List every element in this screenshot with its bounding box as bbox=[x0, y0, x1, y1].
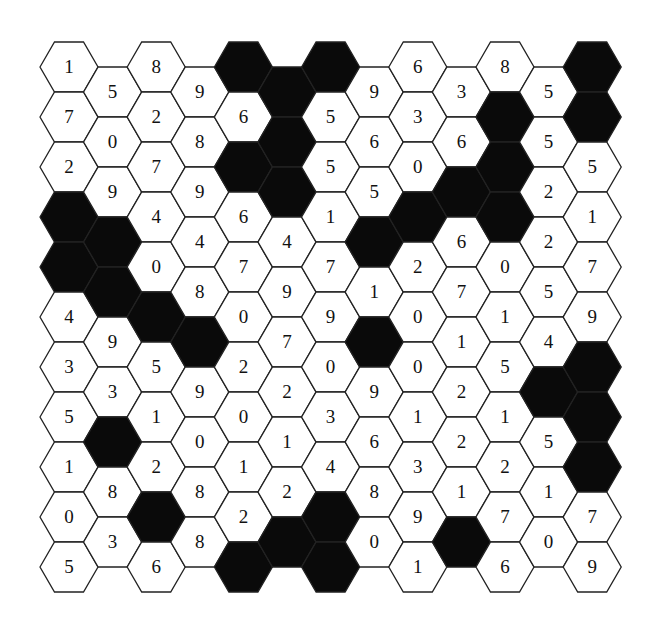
cell-number: 7 bbox=[587, 506, 597, 527]
cell-number: 0 bbox=[326, 356, 336, 377]
cell-number: 1 bbox=[500, 306, 510, 327]
cell-number: 0 bbox=[151, 256, 161, 277]
cell-number: 1 bbox=[544, 481, 554, 502]
cell-number: 1 bbox=[64, 56, 74, 77]
cell-number: 1 bbox=[587, 206, 597, 227]
cell-number: 7 bbox=[282, 331, 292, 352]
cell-number: 3 bbox=[64, 356, 74, 377]
cell-number: 2 bbox=[500, 456, 510, 477]
cell-number: 7 bbox=[457, 281, 467, 302]
cell-number: 1 bbox=[413, 556, 423, 577]
hex-grid: 1724351055099383827405126989489088667020… bbox=[0, 0, 665, 644]
cell-number: 0 bbox=[195, 431, 205, 452]
cell-number: 5 bbox=[108, 81, 118, 102]
cell-number: 8 bbox=[195, 281, 205, 302]
cell-number: 6 bbox=[369, 131, 379, 152]
cell-number: 5 bbox=[587, 156, 597, 177]
cell-number: 0 bbox=[239, 306, 249, 327]
cell-number: 2 bbox=[151, 106, 161, 127]
cell-number: 2 bbox=[413, 256, 423, 277]
cell-number: 9 bbox=[369, 81, 379, 102]
cell-number: 0 bbox=[413, 156, 423, 177]
cell-number: 8 bbox=[195, 531, 205, 552]
cell-number: 0 bbox=[544, 531, 554, 552]
cell-number: 8 bbox=[108, 481, 118, 502]
cell-number: 3 bbox=[108, 381, 118, 402]
cell-number: 1 bbox=[500, 406, 510, 427]
cell-number: 1 bbox=[239, 456, 249, 477]
cell-number: 9 bbox=[108, 331, 118, 352]
cell-number: 5 bbox=[326, 156, 336, 177]
cell-number: 9 bbox=[587, 556, 597, 577]
cell-number: 2 bbox=[544, 181, 554, 202]
cell-number: 1 bbox=[457, 481, 467, 502]
cell-number: 1 bbox=[413, 406, 423, 427]
cell-number: 1 bbox=[282, 431, 292, 452]
cell-number: 1 bbox=[151, 406, 161, 427]
cell-number: 5 bbox=[64, 406, 74, 427]
cell-number: 9 bbox=[195, 381, 205, 402]
cell-number: 2 bbox=[64, 156, 74, 177]
cell-number: 6 bbox=[239, 106, 249, 127]
cell-number: 5 bbox=[326, 106, 336, 127]
cell-number: 1 bbox=[457, 331, 467, 352]
cell-number: 7 bbox=[151, 156, 161, 177]
cell-number: 8 bbox=[151, 56, 161, 77]
cell-number: 0 bbox=[413, 356, 423, 377]
cell-number: 5 bbox=[544, 431, 554, 452]
cell-number: 6 bbox=[369, 431, 379, 452]
cell-number: 9 bbox=[369, 381, 379, 402]
cell-number: 5 bbox=[544, 281, 554, 302]
cell-number: 5 bbox=[544, 131, 554, 152]
cell-number: 0 bbox=[108, 131, 118, 152]
cell-number: 3 bbox=[413, 456, 423, 477]
cell-number: 6 bbox=[413, 56, 423, 77]
cell-number: 8 bbox=[195, 131, 205, 152]
cell-number: 2 bbox=[239, 506, 249, 527]
cell-number: 0 bbox=[239, 406, 249, 427]
cell-number: 4 bbox=[195, 231, 205, 252]
cell-number: 6 bbox=[457, 131, 467, 152]
cell-number: 5 bbox=[151, 356, 161, 377]
cell-number: 1 bbox=[326, 206, 336, 227]
cell-number: 2 bbox=[282, 481, 292, 502]
cell-number: 9 bbox=[195, 181, 205, 202]
cell-number: 9 bbox=[282, 281, 292, 302]
cell-number: 0 bbox=[413, 306, 423, 327]
cell-number: 4 bbox=[544, 331, 554, 352]
cell-number: 9 bbox=[587, 306, 597, 327]
cell-number: 3 bbox=[326, 406, 336, 427]
cell-number: 6 bbox=[151, 556, 161, 577]
cell-number: 6 bbox=[457, 231, 467, 252]
cell-number: 1 bbox=[64, 456, 74, 477]
cell-number: 2 bbox=[239, 356, 249, 377]
cell-number: 2 bbox=[457, 381, 467, 402]
cell-number: 0 bbox=[64, 506, 74, 527]
cell-number: 4 bbox=[151, 206, 161, 227]
cell-number: 2 bbox=[544, 231, 554, 252]
cell-number: 0 bbox=[369, 531, 379, 552]
cell-number: 6 bbox=[500, 556, 510, 577]
cell-number: 4 bbox=[64, 306, 74, 327]
cell-number: 7 bbox=[587, 256, 597, 277]
cell-number: 5 bbox=[64, 556, 74, 577]
cell-number: 3 bbox=[457, 81, 467, 102]
cell-number: 8 bbox=[369, 481, 379, 502]
cell-number: 2 bbox=[151, 456, 161, 477]
cell-number: 7 bbox=[64, 106, 74, 127]
cell-number: 2 bbox=[457, 431, 467, 452]
cell-number: 3 bbox=[108, 531, 118, 552]
cell-number: 0 bbox=[500, 256, 510, 277]
cell-number: 7 bbox=[500, 506, 510, 527]
cell-number: 3 bbox=[413, 106, 423, 127]
cell-number: 5 bbox=[500, 356, 510, 377]
cell-number: 6 bbox=[239, 206, 249, 227]
hex-puzzle-board: 1724351055099383827405126989489088667020… bbox=[0, 0, 665, 644]
cell-number: 1 bbox=[369, 281, 379, 302]
cell-number: 5 bbox=[544, 81, 554, 102]
cell-number: 7 bbox=[326, 256, 336, 277]
cell-number: 2 bbox=[282, 381, 292, 402]
cell-number: 4 bbox=[282, 231, 292, 252]
cell-number: 9 bbox=[108, 181, 118, 202]
cell-number: 9 bbox=[195, 81, 205, 102]
